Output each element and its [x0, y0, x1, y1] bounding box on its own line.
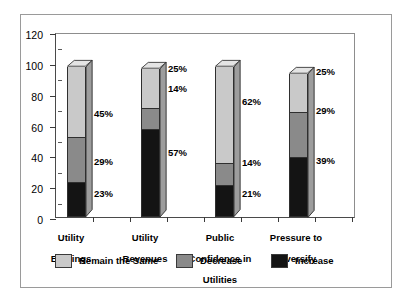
bar-group-utility-revenues[interactable] — [141, 69, 160, 217]
legend-item-remain-the-same[interactable]: Remain the Same — [55, 253, 158, 269]
y-tick-minor-10 — [58, 204, 62, 205]
bar-segment-remain-1[interactable] — [67, 67, 86, 136]
value-label-decrease-3: 14% — [242, 158, 261, 168]
legend-label-increase: Increase — [295, 256, 334, 266]
legend-swatch-remain-the-same — [55, 254, 72, 268]
legend-label-decrease: Decrease — [200, 256, 242, 266]
y-tick-40: 40 — [50, 157, 56, 158]
value-label-remain-4: 25% — [316, 67, 335, 77]
category-label-line: Public — [180, 233, 260, 244]
bar-segment-remain-4[interactable] — [289, 74, 308, 113]
y-tick-minor-90 — [58, 80, 62, 81]
bar-top-cap-3 — [215, 60, 241, 67]
bar-segment-remain-2[interactable] — [141, 69, 160, 108]
y-tick-minor-110 — [58, 49, 62, 50]
bar-segment-decrease-3[interactable] — [215, 163, 234, 185]
bar-segment-remain-3[interactable] — [215, 67, 234, 163]
value-label-decrease-1: 29% — [94, 157, 113, 167]
y-tick-60: 60 — [50, 127, 56, 128]
value-label-increase-4: 39% — [316, 156, 335, 166]
bar-segment-decrease-1[interactable] — [67, 137, 86, 182]
y-axis-label-20: 20 — [31, 184, 43, 195]
value-label-decrease-4: 29% — [316, 106, 335, 116]
y-tick-80: 80 — [50, 96, 56, 97]
category-label-line: Utilities — [180, 275, 260, 286]
category-label-line: Utility — [36, 233, 106, 244]
legend-label-remain-the-same: Remain the Same — [79, 256, 158, 266]
y-axis-label-40: 40 — [31, 153, 43, 164]
plot-area: 120 100 80 60 40 20 0 — [55, 33, 355, 218]
stacked-bar-chart: 120 100 80 60 40 20 0 — [0, 0, 414, 304]
bar-segment-increase-2[interactable] — [141, 129, 160, 217]
bar-segment-decrease-2[interactable] — [141, 108, 160, 130]
y-tick-120: 120 — [50, 34, 56, 35]
bar-top-cap-2 — [141, 62, 167, 69]
legend-item-decrease[interactable]: Decrease — [176, 253, 242, 269]
bar-segment-increase-3[interactable] — [215, 185, 234, 217]
value-label-increase-3: 21% — [242, 189, 261, 199]
value-label-increase-1: 23% — [94, 189, 113, 199]
x-tick-8 — [352, 217, 353, 222]
bar-side-face-1 — [86, 60, 93, 217]
y-axis-label-60: 60 — [31, 122, 43, 133]
bar-group-utility-earnings[interactable] — [67, 67, 86, 217]
y-axis-label-100: 100 — [25, 61, 43, 72]
chart-legend: Remain the Same Decrease Increase — [55, 253, 365, 271]
bar-side-face-2 — [160, 62, 167, 217]
y-axis-label-120: 120 — [25, 30, 43, 41]
value-label-remain-2: 25% — [168, 64, 187, 74]
y-tick-0: 0 — [50, 219, 56, 220]
y-tick-20: 20 — [50, 188, 56, 189]
value-label-decrease-2: 14% — [168, 84, 187, 94]
bar-segment-decrease-4[interactable] — [289, 112, 308, 157]
value-label-remain-1: 45% — [94, 109, 113, 119]
legend-item-increase[interactable]: Increase — [271, 253, 334, 269]
bar-side-face-3 — [234, 60, 241, 217]
legend-swatch-increase — [271, 254, 288, 268]
bar-top-cap-1 — [67, 60, 93, 67]
y-tick-100: 100 — [50, 65, 56, 66]
category-label-line: Pressure to — [256, 233, 336, 244]
y-tick-minor-30 — [58, 173, 62, 174]
category-label-line: Utility — [110, 233, 180, 244]
value-label-increase-2: 57% — [168, 148, 187, 158]
bar-segment-increase-4[interactable] — [289, 157, 308, 217]
bar-segment-increase-1[interactable] — [67, 182, 86, 217]
y-axis-label-80: 80 — [31, 91, 43, 102]
bar-group-public-confidence[interactable] — [215, 67, 234, 217]
bar-top-cap-4 — [289, 67, 315, 74]
bar-side-face-4 — [308, 67, 315, 217]
y-tick-minor-70 — [58, 111, 62, 112]
value-label-remain-3: 62% — [242, 97, 261, 107]
y-tick-minor-50 — [58, 142, 62, 143]
bar-group-pressure-to-diversify[interactable] — [289, 74, 308, 217]
legend-swatch-decrease — [176, 254, 193, 268]
